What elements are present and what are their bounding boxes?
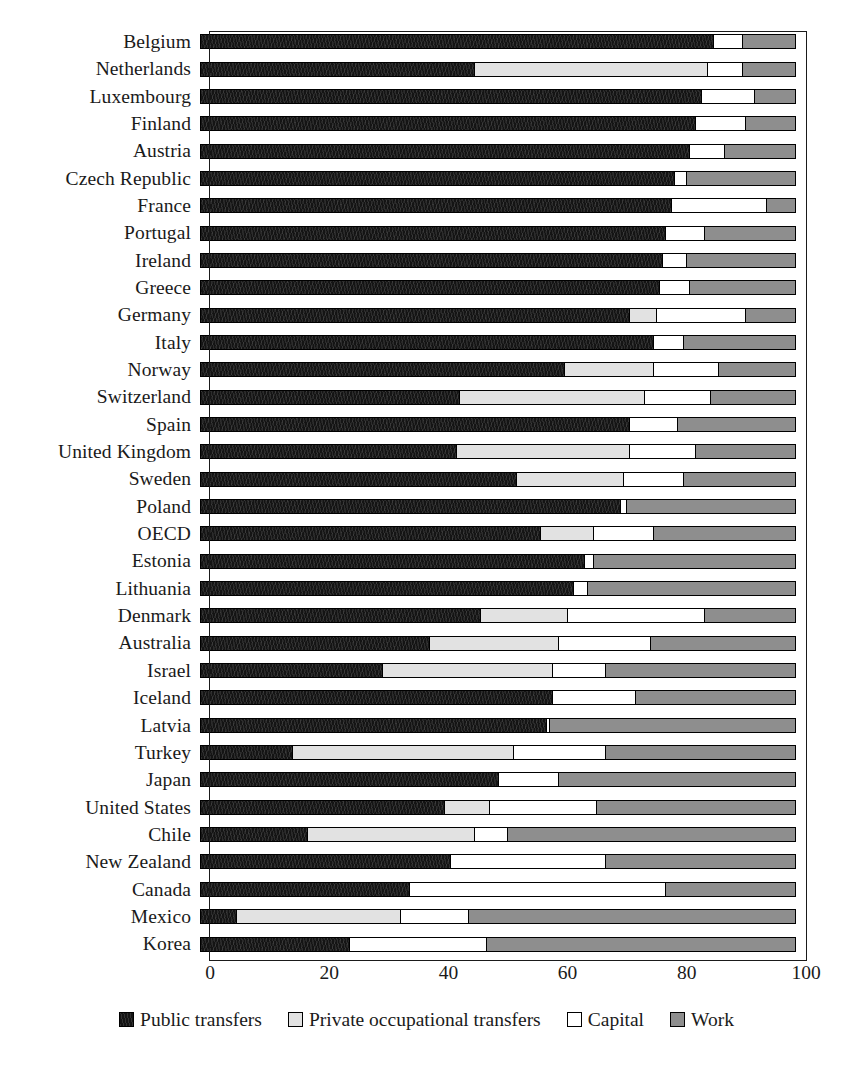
bar-row: Israel — [0, 657, 853, 684]
bar-segment-work — [704, 226, 796, 241]
bar-segment-capital — [573, 581, 588, 596]
stacked-bar — [200, 800, 796, 815]
bar-segment-public-transfers — [200, 800, 444, 815]
stacked-bar — [200, 772, 796, 787]
stacked-bar — [200, 34, 796, 49]
legend-item: Capital — [567, 1010, 644, 1030]
stacked-bar — [200, 444, 796, 459]
category-label: Chile — [0, 825, 200, 845]
stacked-bar — [200, 253, 796, 268]
bar-row: Turkey — [0, 739, 853, 766]
bar-segment-work — [745, 308, 796, 323]
bar-segment-work — [695, 444, 796, 459]
bar-segment-capital — [662, 253, 686, 268]
bar-segment-public-transfers — [200, 526, 540, 541]
category-label: Iceland — [0, 688, 200, 708]
bar-row: Poland — [0, 493, 853, 520]
legend-swatch-icon — [119, 1012, 134, 1027]
legend-item: Public transfers — [119, 1010, 262, 1030]
category-label: Norway — [0, 360, 200, 380]
x-axis: 020406080100 — [209, 963, 807, 993]
bar-row: United States — [0, 794, 853, 821]
bar-row: Chile — [0, 821, 853, 848]
bar-segment-work — [549, 718, 796, 733]
bar-segment-capital — [552, 690, 635, 705]
bar-row: Sweden — [0, 466, 853, 493]
bar-row: Czech Republic — [0, 165, 853, 192]
stacked-bar — [200, 280, 796, 295]
stacked-bar — [200, 499, 796, 514]
bar-segment-capital — [400, 909, 469, 924]
category-label: Belgium — [0, 32, 200, 52]
stacked-bar — [200, 89, 796, 104]
bar-segment-public-transfers — [200, 636, 429, 651]
category-label: Turkey — [0, 743, 200, 763]
category-label: Netherlands — [0, 59, 200, 79]
stacked-bar — [200, 663, 796, 678]
bar-row: Italy — [0, 329, 853, 356]
bar-segment-public-transfers — [200, 116, 695, 131]
bar-segment-public-transfers — [200, 417, 629, 432]
bar-row: Latvia — [0, 712, 853, 739]
bar-segment-work — [689, 280, 796, 295]
bar-row: Spain — [0, 411, 853, 438]
bar-segment-work — [635, 690, 796, 705]
category-label: France — [0, 196, 200, 216]
bar-segment-private-occupational-transfers — [540, 526, 594, 541]
category-label: Latvia — [0, 716, 200, 736]
bar-segment-public-transfers — [200, 89, 701, 104]
category-label: Portugal — [0, 223, 200, 243]
category-label: Israel — [0, 661, 200, 681]
bar-segment-capital — [653, 335, 683, 350]
bar-segment-public-transfers — [200, 608, 480, 623]
bar-row: Austria — [0, 137, 853, 164]
bar-segment-private-occupational-transfers — [564, 362, 653, 377]
bar-segment-capital — [558, 636, 650, 651]
bar-segment-capital — [474, 827, 507, 842]
bar-segment-work — [596, 800, 796, 815]
bar-row: France — [0, 192, 853, 219]
bar-segment-capital — [671, 198, 766, 213]
category-label: Austria — [0, 141, 200, 161]
bar-row: Denmark — [0, 602, 853, 629]
bar-segment-public-transfers — [200, 554, 584, 569]
bar-segment-work — [683, 335, 796, 350]
bar-segment-work — [605, 663, 796, 678]
bar-segment-work — [742, 34, 796, 49]
bar-segment-work — [677, 417, 796, 432]
bar-segment-work — [507, 827, 796, 842]
bar-segment-capital — [656, 308, 745, 323]
bar-segment-public-transfers — [200, 335, 653, 350]
stacked-bar — [200, 116, 796, 131]
bar-segment-public-transfers — [200, 690, 552, 705]
bar-segment-capital — [593, 526, 653, 541]
stacked-bar — [200, 362, 796, 377]
bar-segment-private-occupational-transfers — [292, 745, 513, 760]
bar-segment-capital — [567, 608, 704, 623]
bar-segment-public-transfers — [200, 772, 498, 787]
bar-row: Switzerland — [0, 383, 853, 410]
bar-segment-public-transfers — [200, 745, 292, 760]
bar-segment-work — [686, 253, 796, 268]
bar-segment-private-occupational-transfers — [516, 472, 623, 487]
legend-swatch-icon — [567, 1012, 582, 1027]
bar-segment-work — [558, 772, 796, 787]
bar-segment-private-occupational-transfers — [444, 800, 489, 815]
bar-row: OECD — [0, 520, 853, 547]
chart-plot-rows: BelgiumNetherlandsLuxembourgFinlandAustr… — [0, 28, 853, 958]
category-label: Lithuania — [0, 579, 200, 599]
legend-swatch-icon — [670, 1012, 685, 1027]
stacked-bar — [200, 171, 796, 186]
bar-segment-capital — [644, 390, 710, 405]
bar-segment-work — [605, 745, 796, 760]
bar-segment-public-transfers — [200, 718, 546, 733]
bar-segment-public-transfers — [200, 909, 236, 924]
stacked-bar — [200, 198, 796, 213]
bar-segment-public-transfers — [200, 444, 456, 459]
category-label: Japan — [0, 770, 200, 790]
bar-segment-private-occupational-transfers — [474, 62, 706, 77]
category-label: Poland — [0, 497, 200, 517]
bar-segment-private-occupational-transfers — [429, 636, 557, 651]
legend-label: Work — [691, 1010, 734, 1030]
category-label: New Zealand — [0, 852, 200, 872]
